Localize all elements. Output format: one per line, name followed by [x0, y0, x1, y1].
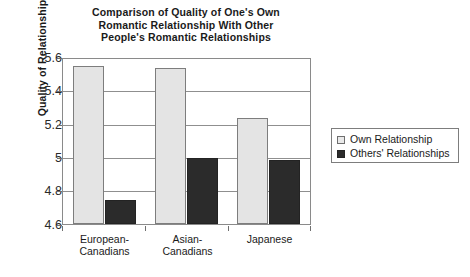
- y-tick-label-5-4: 5.4: [2, 85, 62, 97]
- dark-square-swatch-icon: [337, 150, 345, 158]
- bar-own-european-canadians: [73, 66, 104, 224]
- x-category-label-japanese: Japanese: [228, 233, 311, 245]
- chart-title: Comparison of Quality of One's Own Roman…: [60, 6, 312, 44]
- bar-own-asian-canadians: [155, 68, 186, 224]
- legend-label-others-relationships: Others' Relationships: [350, 148, 449, 159]
- x-tick-mark-left-edge: [62, 226, 63, 231]
- x-category-line-1: Japanese: [228, 233, 311, 245]
- bar-own-japanese: [237, 118, 268, 224]
- x-category-line-1: European-: [63, 233, 146, 245]
- y-tick-label-5-0: 5: [2, 152, 62, 164]
- y-tick-label-4-6: 4.6: [2, 219, 62, 231]
- x-category-line-2: Canadians: [146, 245, 229, 257]
- bar-others-japanese: [269, 160, 300, 224]
- x-category-label-asian-canadians: Asian- Canadians: [146, 233, 229, 257]
- y-tick-label-5-2: 5.2: [2, 119, 62, 131]
- y-tick-label-4-8: 4.8: [2, 185, 62, 197]
- bar-chart: Comparison of Quality of One's Own Roman…: [0, 0, 470, 277]
- x-category-line-2: Canadians: [63, 245, 146, 257]
- x-tick-mark-2: [228, 226, 229, 231]
- x-category-line-1: Asian-: [146, 233, 229, 245]
- y-tick-label-5-6: 5.6: [2, 52, 62, 64]
- bar-others-asian-canadians: [187, 158, 218, 224]
- x-tick-mark-1: [145, 226, 146, 231]
- plot-area: [62, 58, 311, 225]
- light-square-swatch-icon: [337, 136, 345, 144]
- x-tick-mark-right-edge: [310, 226, 311, 231]
- chart-legend: Own Relationship Others' Relationships: [331, 128, 459, 163]
- x-category-label-european-canadians: European- Canadians: [63, 233, 146, 257]
- legend-item-others-relationships: Others' Relationships: [337, 147, 454, 160]
- chart-title-line-3: People's Romantic Relationships: [60, 31, 312, 44]
- chart-title-line-2: Romantic Relationship With Other: [60, 19, 312, 32]
- legend-label-own-relationship: Own Relationship: [350, 134, 432, 145]
- legend-item-own-relationship: Own Relationship: [337, 133, 454, 146]
- chart-title-line-1: Comparison of Quality of One's Own: [60, 6, 312, 19]
- bar-others-european-canadians: [105, 200, 136, 224]
